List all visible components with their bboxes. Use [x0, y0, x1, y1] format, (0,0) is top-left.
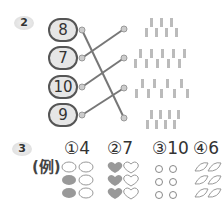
- section-3-badge: 3: [12, 142, 32, 156]
- answer-1: ①4: [64, 138, 90, 158]
- flower-icons: [62, 162, 93, 198]
- matching-lines: [0, 0, 222, 211]
- answer-3: ③10: [152, 138, 189, 158]
- example-label: (例): [32, 155, 61, 176]
- heart-icons: [108, 162, 139, 199]
- leaf-icons: [195, 163, 221, 197]
- ring-icons: [156, 166, 177, 199]
- answer-2: ②7: [107, 138, 133, 158]
- answer-4: ④6: [193, 138, 219, 158]
